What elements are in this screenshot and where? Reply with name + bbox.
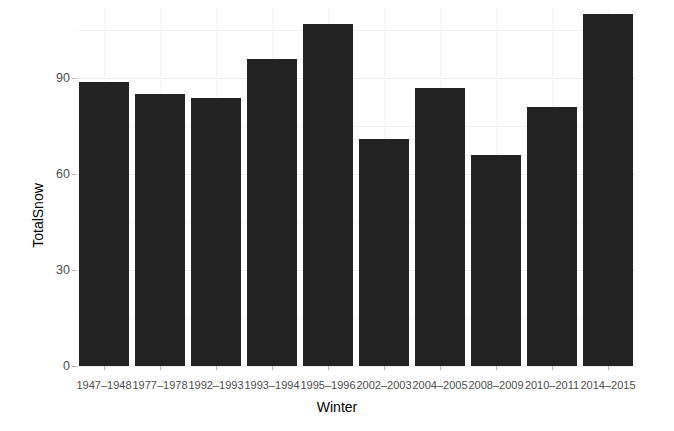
bar	[471, 155, 521, 366]
bar	[415, 88, 465, 366]
x-tick-mark	[608, 366, 609, 370]
bar	[79, 82, 129, 366]
x-tick-label: 1947–1948	[76, 379, 131, 391]
y-tick-label: 60	[24, 167, 70, 181]
bar	[247, 59, 297, 366]
x-tick-label: 2008–2009	[468, 379, 523, 391]
x-tick-label: 1977–1978	[132, 379, 187, 391]
y-axis-ticks: 0306090	[10, 0, 70, 431]
bar	[303, 24, 353, 366]
x-tick-label: 1993–1994	[244, 379, 299, 391]
x-tick-mark	[384, 366, 385, 370]
bar	[135, 94, 185, 366]
x-tick-mark	[160, 366, 161, 370]
x-tick-label: 2014–2015	[580, 379, 635, 391]
x-tick-label: 2010–2011	[525, 379, 579, 391]
x-tick-mark	[272, 366, 273, 370]
y-tick-label: 90	[24, 71, 70, 85]
x-tick-mark	[104, 366, 105, 370]
bars-layer	[76, 8, 636, 366]
bar-chart: TotalSnow 0306090 1947–19481977–19781992…	[0, 0, 674, 431]
x-axis-title: Winter	[0, 399, 674, 415]
x-tick-label: 2002–2003	[356, 379, 411, 391]
x-tick-mark	[328, 366, 329, 370]
bar	[527, 107, 577, 366]
x-tick-mark	[496, 366, 497, 370]
y-tick-label: 30	[24, 263, 70, 277]
x-tick-label: 1995–1996	[300, 379, 355, 391]
plot-panel	[76, 8, 636, 366]
x-tick-mark	[216, 366, 217, 370]
bar	[191, 98, 241, 367]
x-tick-label: 2004–2005	[412, 379, 467, 391]
bar	[583, 14, 633, 366]
bar	[359, 139, 409, 366]
y-tick-label: 0	[24, 359, 70, 373]
x-tick-label: 1992–1993	[188, 379, 243, 391]
x-tick-mark	[552, 366, 553, 370]
x-tick-mark	[440, 366, 441, 370]
